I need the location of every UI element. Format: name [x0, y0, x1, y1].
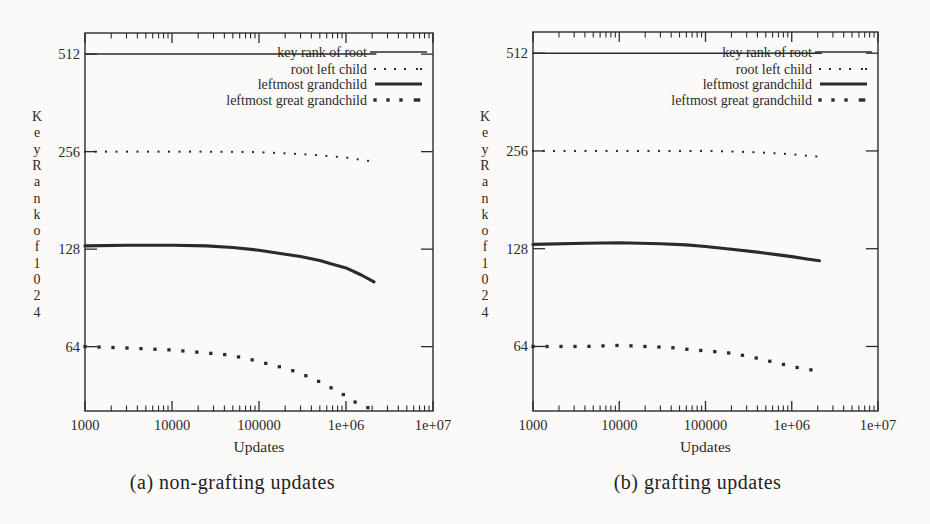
y-axis-title-letter: y: [482, 142, 489, 157]
legend-sample-dot: [819, 68, 821, 70]
series-dot: [616, 150, 618, 152]
y-tick-label: 64: [66, 339, 81, 355]
series-dot: [741, 354, 744, 357]
y-axis-title-letter: f: [35, 239, 40, 254]
y-axis-title-letter: K: [480, 109, 490, 124]
series-dot: [629, 344, 632, 347]
legend-sample-dot: [416, 68, 418, 70]
series-dot: [699, 349, 702, 352]
legend-sample-dot: [865, 68, 867, 70]
legend-sample-dot: [404, 68, 406, 70]
series-line-thick: [533, 243, 820, 261]
series-dot: [317, 380, 320, 383]
series-dot: [763, 152, 765, 154]
series-dot: [657, 345, 660, 348]
series-dot: [713, 350, 716, 353]
series-dot: [795, 366, 798, 369]
y-axis-title-letter: 4: [482, 305, 489, 320]
legend-sample-dot: [386, 98, 389, 101]
legend-label: leftmost great grandchild: [226, 93, 367, 108]
series-dot: [794, 154, 796, 156]
series-dot: [264, 362, 267, 365]
y-tick-label: 512: [58, 46, 80, 62]
series-dot: [559, 345, 562, 348]
y-axis-title-letter: f: [483, 239, 488, 254]
x-tick-label: 1e+07: [860, 417, 896, 433]
legend-sample-dot: [394, 68, 396, 70]
series-dot: [342, 393, 345, 396]
y-axis-title-letter: R: [480, 158, 490, 173]
series-dot: [679, 150, 681, 152]
y-axis-title-letter: k: [34, 207, 41, 222]
series-dot: [346, 157, 348, 159]
x-tick-label: 100000: [237, 417, 281, 433]
series-dot: [353, 400, 356, 403]
series-dot: [752, 151, 754, 153]
legend-sample-dot: [373, 98, 376, 101]
series-dot: [805, 155, 807, 157]
series-dot: [627, 150, 629, 152]
series-dot: [615, 344, 618, 347]
series-dot: [532, 150, 534, 152]
series-dot: [742, 151, 744, 153]
series-dot: [658, 150, 660, 152]
caption-b: (b) grafting updates: [465, 471, 930, 494]
series-dot: [179, 151, 181, 153]
series-dot: [357, 158, 359, 160]
series-dot: [237, 355, 240, 358]
x-tick-label: 10000: [154, 417, 190, 433]
series-dot: [601, 344, 604, 347]
scanned-figure: 1000100001000001e+061e+0751225612864Upda…: [0, 0, 930, 524]
series-dot: [585, 150, 587, 152]
y-axis-title-letter: a: [482, 174, 489, 189]
series-dot: [366, 406, 369, 409]
series-dot: [158, 151, 160, 153]
y-axis-title-letter: 1: [482, 256, 489, 271]
legend-label: key rank of root: [722, 45, 812, 60]
series-dot: [231, 151, 233, 153]
legend-label: root left child: [736, 62, 812, 77]
series-dot: [700, 150, 702, 152]
y-tick-label: 128: [506, 241, 528, 257]
legend-label: leftmost grandchild: [703, 77, 812, 92]
series-dot: [181, 349, 184, 352]
y-axis-title-letter: K: [32, 109, 42, 124]
legend-sample-dot: [861, 68, 863, 70]
legend-sample-dot: [859, 98, 866, 101]
legend-label: leftmost great grandchild: [671, 93, 812, 108]
series-dot: [111, 346, 114, 349]
series-dot: [294, 153, 296, 155]
y-tick-label: 512: [506, 45, 528, 61]
series-dot: [727, 351, 730, 354]
series-dot: [241, 151, 243, 153]
series-dot: [315, 154, 317, 156]
x-tick-label: 1e+06: [774, 417, 810, 433]
series-dot: [210, 151, 212, 153]
series-dot: [278, 365, 281, 368]
series-dot: [564, 150, 566, 152]
series-dot: [731, 151, 733, 153]
legend-label: key rank of root: [277, 45, 367, 60]
chart-b-grafting: 1000100001000001e+061e+0751225612864Upda…: [465, 0, 930, 524]
series-dot: [336, 156, 338, 158]
series-dot: [168, 151, 170, 153]
x-tick-label: 1000: [71, 417, 100, 433]
series-dot: [671, 346, 674, 349]
series-dot: [283, 152, 285, 154]
x-tick-label: 10000: [601, 417, 637, 433]
series-dot: [137, 151, 139, 153]
series-dot: [595, 150, 597, 152]
series-dot: [195, 350, 198, 353]
series-dot: [809, 368, 812, 371]
series-dot: [291, 369, 294, 372]
y-tick-label: 128: [58, 241, 80, 257]
series-dot: [199, 151, 201, 153]
series-dot: [189, 151, 191, 153]
series-dot: [116, 151, 118, 153]
series-dot: [669, 150, 671, 152]
chart-a-non-grafting: 1000100001000001e+061e+0751225612864Upda…: [0, 0, 465, 524]
y-axis-title-letter: 0: [34, 272, 41, 287]
y-tick-label: 256: [506, 143, 528, 159]
legend-label: root left child: [291, 62, 367, 77]
y-axis-title-letter: o: [34, 223, 41, 238]
